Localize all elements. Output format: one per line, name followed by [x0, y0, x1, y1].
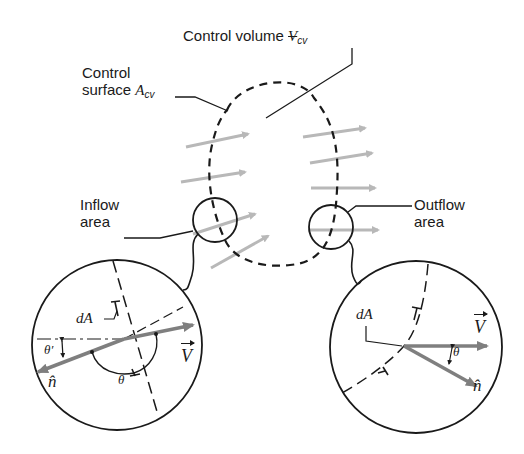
control-surface-line2: surface — [82, 81, 135, 98]
velocity-symbol: V — [181, 346, 192, 367]
inflow-velocity-label: V — [181, 346, 192, 367]
volume-subscript: cv — [297, 35, 307, 46]
control-surface-line1: Control — [82, 64, 155, 81]
volume-symbol: V — [288, 28, 297, 44]
inflow-theta-label: θ — [118, 372, 124, 388]
inflow-line1: Inflow — [80, 196, 119, 213]
control-surface-label: Control surface Acv — [82, 64, 155, 103]
inflow-area-label: Inflow area — [80, 196, 119, 230]
inflow-line2: area — [80, 213, 119, 230]
area-subscript: cv — [145, 89, 155, 100]
control-volume-text: Control volume — [183, 27, 288, 44]
outflow-detail — [330, 261, 502, 433]
control-volume-label: Control volume Vcv — [183, 27, 307, 49]
inflow-detail — [32, 260, 202, 430]
leader-lines — [124, 48, 412, 238]
outflow-velocity-label: V — [474, 317, 485, 338]
control-volume-diagram: Control volume Vcv Control surface Acv I… — [0, 0, 524, 454]
outflow-area-label: Outflow area — [414, 196, 465, 230]
area-symbol: A — [135, 82, 144, 98]
outflow-theta-label: θ — [453, 344, 459, 360]
outflow-line1: Outflow — [414, 196, 465, 213]
outflow-dA-label: dA — [356, 306, 373, 323]
inflow-area-circle — [193, 198, 237, 242]
velocity-symbol: V — [474, 317, 485, 338]
outflow-n-hat-label: n̂ — [473, 376, 482, 396]
outflow-line2: area — [414, 213, 465, 230]
inflow-theta-prime-label: θ′ — [44, 342, 53, 358]
inflow-dA-label: dA — [76, 310, 93, 327]
inflow-n-hat-label: n̂ — [48, 372, 57, 392]
outflow-area-circle — [309, 205, 353, 249]
